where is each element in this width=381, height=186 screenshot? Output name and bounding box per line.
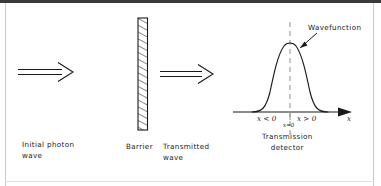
x-positive-label: x > 0: [297, 114, 316, 123]
incident-arrow-icon: [18, 63, 73, 82]
initial-photon-wave-label: Initial photon wave: [22, 139, 74, 161]
figure-canvas: Initial photon wave Barrier Transmitted …: [0, 0, 381, 186]
x-zero-label: x=0: [283, 122, 294, 128]
x-axis-line: [233, 108, 352, 117]
x-axis-label: x: [347, 114, 351, 123]
barrier-block-icon: [138, 18, 148, 130]
transmitted-arrow-icon: [160, 65, 213, 84]
x-negative-label: x < 0: [257, 114, 276, 123]
wavefunction-label: Wavefunction: [308, 22, 361, 33]
barrier-label: Barrier: [126, 141, 153, 152]
transmission-detector-label: Transmission detector: [262, 131, 313, 153]
transmitted-wave-label: Transmitted wave: [163, 141, 209, 163]
wavefunction-pointer-icon: [300, 33, 317, 48]
